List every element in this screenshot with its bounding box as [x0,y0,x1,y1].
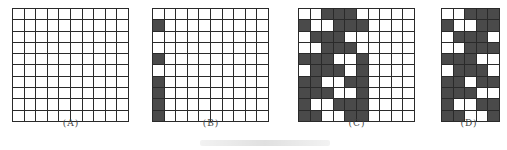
grid-cell-filled [311,54,322,64]
grid-cell-empty [380,9,391,19]
grid-cell-empty [188,88,199,98]
grid-cell-empty [188,43,199,53]
grid-cell-empty [117,32,128,42]
grid-cell-empty [13,43,24,53]
grid-cell-empty [106,88,117,98]
grid-cell-filled [311,88,322,98]
grid-cell-empty [299,65,310,75]
grid-cell-empty [25,9,36,19]
grid-cell-empty [71,43,82,53]
grid-cell-empty [176,99,187,109]
grid-cell-empty [369,77,380,87]
grid-cell-empty [211,54,222,64]
panel-a [12,8,129,122]
grid-cell-empty [380,111,391,121]
grid-cell-empty [380,54,391,64]
grid-cell-empty [246,32,257,42]
grid-cell-empty [403,54,414,64]
grid-cell-filled [465,88,476,98]
grid-cell-filled [357,99,368,109]
grid-d [441,8,500,122]
grid-cell-filled [322,9,333,19]
grid-cell-empty [403,20,414,30]
panel-label-a: (A) [63,118,80,128]
grid-cell-empty [13,99,24,109]
grid-cell-empty [234,43,245,53]
grid-c [298,8,415,122]
grid-cell-empty [165,77,176,87]
grid-cell-empty [246,77,257,87]
grid-cell-empty [257,77,268,87]
grid-cell-empty [322,20,333,30]
grid-cell-empty [465,20,476,30]
grid-cell-empty [380,65,391,75]
grid-cell-empty [392,88,403,98]
grid-cell-empty [234,32,245,42]
grid-cell-filled [488,99,499,109]
grid-cell-filled [454,54,465,64]
grid-cell-empty [454,43,465,53]
grid-cell-empty [48,9,59,19]
grid-cell-empty [334,88,345,98]
grid-cell-empty [59,32,70,42]
grid-cell-empty [117,20,128,30]
grid-cell-empty [106,99,117,109]
grid-cell-empty [188,77,199,87]
grid-cell-empty [36,99,47,109]
grid-cell-empty [392,54,403,64]
grid-cell-empty [322,99,333,109]
grid-cell-empty [13,111,24,121]
grid-cell-empty [199,77,210,87]
grid-cell-empty [36,20,47,30]
grid-cell-empty [117,65,128,75]
grid-cell-empty [380,99,391,109]
grid-cell-empty [94,54,105,64]
grid-cell-empty [392,20,403,30]
grid-cell-empty [488,32,499,42]
grid-cell-filled [465,43,476,53]
grid-cell-empty [71,88,82,98]
grid-cell-empty [223,111,234,121]
grid-cell-empty [94,32,105,42]
grid-cell-empty [48,32,59,42]
grid-cell-filled [322,54,333,64]
grid-cell-empty [25,32,36,42]
grid-cell-empty [48,111,59,121]
grid-cell-filled [442,77,453,87]
grid-cell-empty [117,99,128,109]
grid-cell-filled [299,111,310,121]
grid-cell-empty [83,65,94,75]
grid-cell-filled [322,88,333,98]
grid-cell-empty [299,9,310,19]
grid-cell-empty [322,111,333,121]
grid-cell-empty [153,9,164,19]
grid-cell-empty [71,77,82,87]
grid-cell-empty [442,32,453,42]
grid-cell-empty [369,20,380,30]
grid-cell-filled [357,88,368,98]
grid-cell-empty [392,65,403,75]
grid-cell-empty [13,65,24,75]
grid-cell-empty [176,20,187,30]
grid-cell-empty [211,32,222,42]
grid-cell-empty [465,77,476,87]
grid-cell-filled [299,20,310,30]
grid-cell-empty [392,32,403,42]
grid-cell-filled [465,54,476,64]
grid-cell-empty [117,9,128,19]
grid-cell-filled [334,20,345,30]
grid-cell-empty [403,111,414,121]
grid-cell-empty [311,43,322,53]
grid-cell-empty [83,9,94,19]
grid-cell-filled [465,9,476,19]
grid-cell-empty [83,99,94,109]
grid-cell-empty [59,99,70,109]
grid-cell-empty [71,54,82,64]
grid-cell-empty [165,54,176,64]
grid-cell-filled [299,99,310,109]
grid-cell-filled [488,9,499,19]
grid-cell-empty [211,43,222,53]
grid-cell-empty [117,43,128,53]
grid-cell-empty [94,20,105,30]
grid-cell-filled [345,20,356,30]
